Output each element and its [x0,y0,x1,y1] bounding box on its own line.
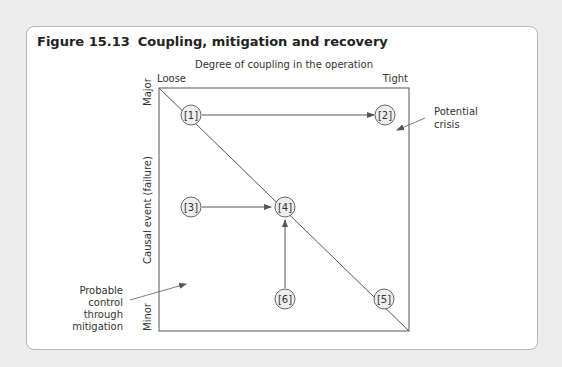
probable-control-annotation: Probable control through mitigation [72,284,186,332]
y-axis-bottom-label: Minor [142,302,153,331]
svg-text:Probable: Probable [79,285,123,296]
y-axis-title: Causal event (failure) [142,156,153,264]
svg-text:[2]: [2] [378,110,392,121]
svg-text:[3]: [3] [184,202,198,213]
node-2: [2] [375,105,395,125]
svg-text:[6]: [6] [278,294,292,305]
diagram: Degree of coupling in the operation Loos… [0,0,562,367]
svg-text:mitigation: mitigation [72,321,123,332]
x-axis-left-label: Loose [157,73,186,84]
svg-text:[4]: [4] [278,202,292,213]
x-axis-title: Degree of coupling in the operation [195,59,373,70]
node-3: [3] [181,197,201,217]
svg-text:crisis: crisis [434,119,460,130]
svg-text:control: control [88,297,123,308]
node-4: [4] [275,197,295,217]
svg-text:[5]: [5] [377,294,391,305]
svg-text:Potential: Potential [434,106,478,117]
svg-text:through: through [84,309,123,320]
node-1: [1] [181,105,201,125]
svg-text:[1]: [1] [184,110,198,121]
y-axis-top-label: Major [142,77,153,106]
x-axis-right-label: Tight [382,73,408,84]
node-5: [5] [374,289,394,309]
node-6: [6] [275,289,295,309]
